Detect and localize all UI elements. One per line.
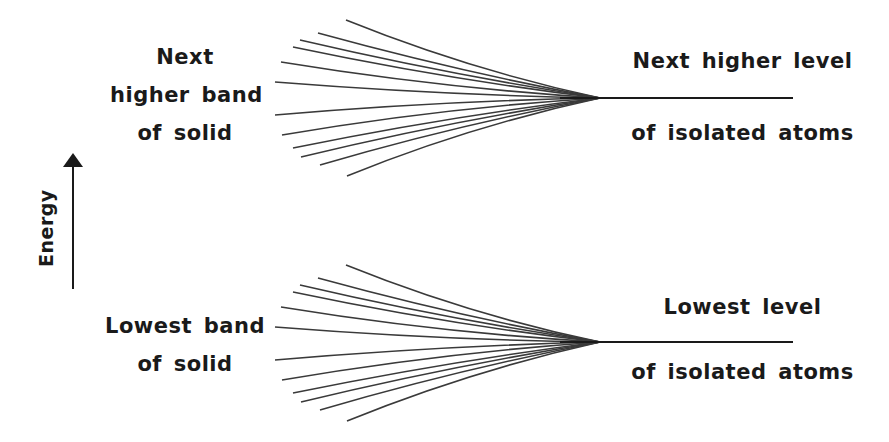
lower-solid-band-label: Lowest band of solid	[90, 307, 280, 383]
upper-solid-band-label: Next higher band of solid	[110, 38, 260, 152]
lower-atom-level-label-bottom: of isolated atoms	[600, 353, 885, 391]
lower-band-fan	[275, 265, 600, 421]
upper-solid-label-line-1: Next	[110, 38, 260, 76]
upper-atom-level-label-bottom: of isolated atoms	[600, 114, 885, 152]
upper-solid-label-line-3: of solid	[110, 114, 260, 152]
upper-atom-level-label-top: Next higher level	[600, 42, 885, 80]
upper-solid-label-line-2: higher band	[110, 76, 260, 114]
energy-arrow-icon	[63, 153, 83, 289]
lower-solid-label-line-1: Lowest band	[90, 307, 280, 345]
energy-axis-label: Energy	[27, 207, 65, 267]
lower-solid-label-line-2: of solid	[90, 345, 280, 383]
band-diagram: Energy Next higher band of solid Next hi…	[0, 0, 889, 442]
lower-atom-level-label-top: Lowest level	[600, 288, 885, 326]
upper-band-fan	[275, 20, 600, 176]
